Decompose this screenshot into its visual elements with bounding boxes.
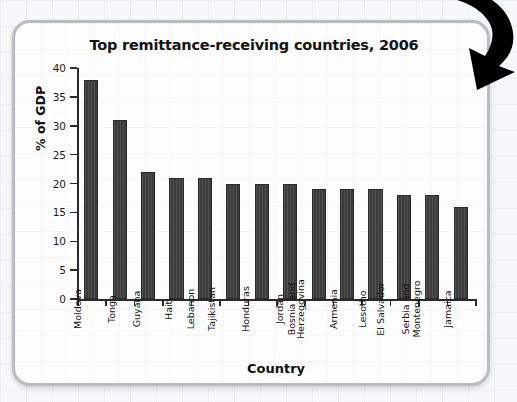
y-axis-line (77, 68, 79, 299)
y-tick-label: 15 (53, 206, 66, 218)
bar (169, 178, 183, 299)
plot-area: 0510152025303540 MoldovaTongaGuyanaHaiti… (77, 68, 475, 299)
screenshot-root: Top remittance-receiving countries, 2006… (0, 0, 517, 402)
y-tick: 25 (70, 154, 77, 156)
y-tick: 40 (70, 67, 77, 69)
bar (312, 189, 326, 299)
x-tick (219, 299, 221, 306)
bar (84, 80, 98, 299)
y-tick: 20 (70, 183, 77, 185)
chart-panel: Top remittance-receiving countries, 2006… (12, 20, 490, 386)
y-tick: 15 (70, 212, 77, 214)
bar (255, 184, 269, 300)
x-axis-title: Country (77, 361, 475, 376)
y-axis-title: % of GDP (33, 86, 48, 151)
y-tick-label: 30 (53, 120, 66, 132)
x-tick (390, 299, 392, 306)
y-tick-label: 0 (59, 293, 66, 305)
x-tick (475, 299, 477, 306)
y-tick-label: 25 (53, 149, 66, 161)
y-tick-label: 10 (53, 235, 66, 247)
y-tick-label: 35 (53, 91, 66, 103)
y-tick: 10 (70, 241, 77, 243)
y-tick: 35 (70, 96, 77, 98)
y-tick: 5 (70, 269, 77, 271)
y-tick-label: 20 (53, 178, 66, 190)
bar (113, 120, 127, 299)
y-tick-label: 5 (59, 264, 66, 276)
bar (226, 184, 240, 300)
bar (340, 189, 354, 299)
bar (141, 172, 155, 299)
bar (425, 195, 439, 299)
bar (198, 178, 212, 299)
chart-title: Top remittance-receiving countries, 2006 (15, 37, 490, 53)
bar (454, 207, 468, 299)
y-tick-label: 40 (53, 62, 66, 74)
y-tick: 30 (70, 125, 77, 127)
